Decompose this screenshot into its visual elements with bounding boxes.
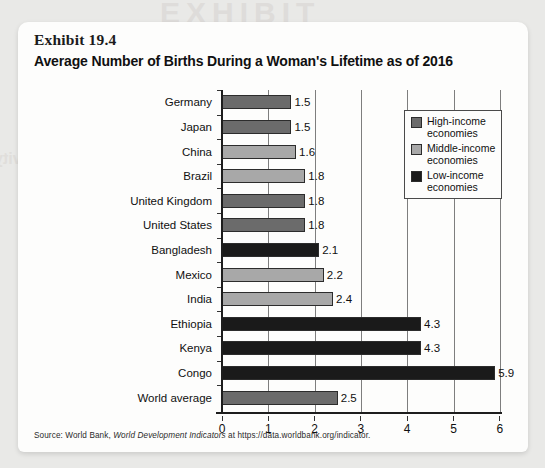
bar-value-label: 1.5 [294,96,310,108]
source-publication: World Development Indicators [113,431,225,440]
bar-value-label: 2.5 [341,392,357,404]
x-tick-label: 6 [490,422,510,436]
category-label: Bangladesh [18,244,212,256]
bar [222,391,338,405]
x-tick-label: 5 [444,422,464,436]
y-axis-line [221,90,223,412]
source-note: Source: World Bank, World Development In… [34,431,370,440]
legend-label: High-income economies [427,116,497,139]
category-label: Japan [18,121,212,133]
x-tick [268,416,269,421]
bar-value-label: 2.2 [327,269,343,281]
x-tick [499,416,500,421]
category-label: Congo [18,367,212,379]
category-label: Kenya [18,342,212,354]
bar-value-label: 2.1 [322,244,338,256]
legend-label: Low-income economies [427,170,497,193]
category-label: Mexico [18,269,212,281]
gridline-3 [361,90,362,412]
bar [222,169,305,183]
bar-value-label: 1.8 [308,170,324,182]
bar-value-label: 1.8 [308,195,324,207]
bar-value-label: 4.3 [424,318,440,330]
x-tick [222,416,223,421]
category-label: United States [18,219,212,231]
legend-swatch-high [411,117,422,128]
legend-label: Middle-income economies [427,143,497,166]
category-label: United Kingdom [18,195,212,207]
bar [222,317,421,331]
bar-value-label: 1.8 [308,219,324,231]
source-suffix: at https://data.worldbank.org/indicator. [226,431,371,440]
category-label: Germany [18,96,212,108]
bar [222,120,291,134]
x-tick [360,416,361,421]
bar [222,341,421,355]
x-tick-label: 4 [397,422,417,436]
category-label: China [18,146,212,158]
x-tick [314,416,315,421]
legend-swatch-middle [411,144,422,155]
legend-item-low: Low-income economies [411,170,497,193]
bar [222,145,296,159]
bar [222,243,319,257]
bar-value-label: 2.4 [336,293,352,305]
exhibit-card: Exhibit 19.4 Average Number of Births Du… [18,22,528,452]
bar [222,366,495,380]
legend-swatch-low [411,171,422,182]
x-tick [407,416,408,421]
bar [222,292,333,306]
bar [222,194,305,208]
bar-value-label: 4.3 [424,342,440,354]
source-prefix: Source: World Bank, [34,431,113,440]
bar [222,268,324,282]
bar-value-label: 1.6 [299,146,315,158]
bar [222,218,305,232]
category-label: World average [18,392,212,404]
bar-chart-plot: Germany1.5Japan1.5China1.6Brazil1.8Unite… [18,22,528,452]
category-label: India [18,293,212,305]
category-label: Ethiopia [18,318,212,330]
legend-item-middle: Middle-income economies [411,143,497,166]
bar-value-label: 1.5 [294,121,310,133]
legend-item-high: High-income economies [411,116,497,139]
x-tick [453,416,454,421]
bar-value-label: 5.9 [498,367,514,379]
x-axis-line [216,412,502,414]
chart-legend: High-income economiesMiddle-income econo… [404,110,502,199]
bar [222,95,291,109]
category-label: Brazil [18,170,212,182]
